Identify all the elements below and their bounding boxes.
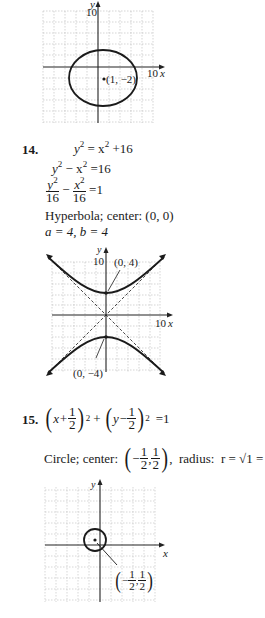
ellipse-graph [0, 0, 265, 130]
vertex-top [104, 291, 108, 295]
y-tick-label: 10 [86, 5, 97, 20]
y-axis-arrow-icon [98, 479, 103, 485]
x-tick-label: 10 [155, 316, 166, 331]
vertex-bottom-label: (0, −4) [73, 366, 103, 381]
problem-number: 14. [22, 142, 38, 157]
circle-classification: Circle; center: ( − 12 , 12 ) , radius: … [44, 442, 265, 474]
arrow-upper-right-icon [159, 254, 166, 260]
equation-line-3: y216 − x216 =1 [46, 179, 103, 204]
x-tick-label: 10 [147, 66, 158, 81]
vertex-top-label: (0, 4) [114, 255, 138, 270]
y-tick-label: 10 [93, 254, 104, 269]
y-axis-arrow-icon [104, 247, 109, 253]
classification-text: Hyperbola; center: (0, 0) [45, 208, 174, 223]
equation-line-2: y2 − x2 =16 [52, 161, 111, 176]
vertex-bottom [104, 335, 108, 339]
center-point [93, 538, 96, 541]
equation-line-1: y2 = x2 +16 [74, 141, 133, 156]
problem-number: 15. [22, 412, 38, 427]
center-label: ( − 12 , 12 ) [114, 566, 154, 594]
circle-equation: ( x+ 12 )2 + ( y− 12 )2 =1 [44, 402, 170, 434]
center-label: (1, −2) [106, 72, 136, 87]
y-axis-label: y [91, 477, 95, 492]
arrow-upper-left-icon [46, 254, 53, 260]
vertex-bottom-leader [96, 339, 104, 358]
parameters-text: a = 4, b = 4 [45, 224, 108, 239]
x-axis-label: x [160, 66, 165, 81]
x-axis-label: x [163, 546, 168, 561]
x-axis-label: x [168, 316, 173, 331]
